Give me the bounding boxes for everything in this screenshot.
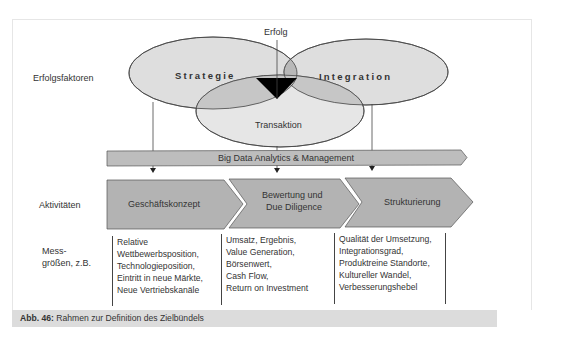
- caption-number: Abb. 46:: [20, 313, 54, 323]
- activity-label-2b: Due Diligence: [266, 201, 322, 213]
- row-label-metrics-1: Mess-: [42, 245, 67, 257]
- activity-label-2a: Bewertung und: [262, 189, 323, 201]
- row-label-metrics-2: größen, z.B.: [42, 257, 91, 269]
- metrics-column-1: Relative Wettbewerbsposition, Technologi…: [112, 236, 222, 306]
- row-label-activities: Aktivitäten: [39, 199, 81, 211]
- metrics-column-2: Umsatz, Ergebnis, Value Generation, Börs…: [221, 234, 335, 305]
- success-label: Erfolg: [264, 26, 288, 38]
- arrow-down-icon: [369, 166, 375, 171]
- metrics-column-3: Qualität der Umsetzung, Integrationsgrad…: [334, 233, 446, 304]
- integration-label: Integration: [319, 71, 392, 83]
- arrow-down-icon: [150, 168, 156, 173]
- figure-caption: Abb. 46: Rahmen zur Definition des Zielb…: [20, 313, 204, 323]
- banner-label: Big Data Analytics & Management: [218, 152, 354, 164]
- metrics-column-divider: [445, 233, 446, 304]
- caption-text: Rahmen zur Definition des Zielbündels: [54, 313, 204, 323]
- activity-label-3: Strukturierung: [384, 196, 441, 208]
- strategy-label: Strategie: [175, 70, 235, 82]
- activity-label-1: Geschäftskonzept: [128, 198, 200, 210]
- transaction-label: Transaktion: [255, 119, 302, 131]
- arrow-down-icon: [274, 168, 280, 173]
- row-label-success-factors: Erfolgsfaktoren: [33, 72, 94, 84]
